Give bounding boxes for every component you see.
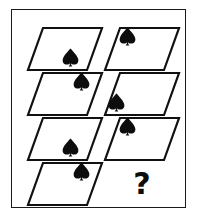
matrix-cell-r3c1[interactable] (26, 116, 104, 162)
spade-icon (73, 162, 90, 181)
matrix-cell-r2c2[interactable] (103, 71, 181, 117)
parallelogram-shape (26, 71, 104, 117)
matrix-cell-r3c2[interactable] (103, 116, 181, 162)
matrix-cell-r4c2-answer-slot[interactable]: ? (103, 161, 181, 207)
parallelogram-shape (103, 26, 181, 72)
spade-icon (73, 72, 90, 91)
matrix-cell-r1c2[interactable] (103, 26, 181, 72)
puzzle-canvas: ? (0, 0, 197, 220)
parallelogram-shape (103, 116, 181, 162)
matrix-cell-r4c1[interactable] (26, 161, 104, 207)
spade-icon (62, 138, 79, 157)
spade-icon (108, 93, 125, 112)
spade-icon (119, 117, 136, 136)
question-mark: ? (103, 161, 181, 207)
spade-icon (62, 48, 79, 67)
matrix-cell-r2c1[interactable] (26, 71, 104, 117)
parallelogram-shape (26, 161, 104, 207)
spade-icon (119, 27, 136, 46)
matrix-cell-r1c1[interactable] (26, 26, 104, 72)
